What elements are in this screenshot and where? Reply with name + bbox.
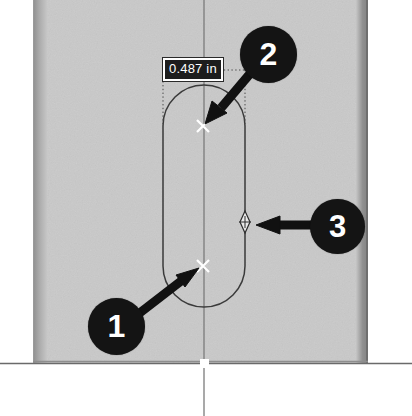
- callout-badge-3[interactable]: 3: [310, 199, 365, 254]
- part-face: [33, 0, 368, 364]
- part-left-shade-band: [33, 0, 47, 364]
- callout-badge-1[interactable]: 1: [88, 298, 145, 355]
- part-face-group: [33, 0, 368, 364]
- dimension-value-label[interactable]: 0.487 in: [163, 58, 223, 81]
- cad-viewport[interactable]: 0.487 in 1 2 3: [0, 0, 412, 416]
- callout-badge-2[interactable]: 2: [240, 26, 297, 83]
- sketch-origin-point[interactable]: [200, 359, 209, 368]
